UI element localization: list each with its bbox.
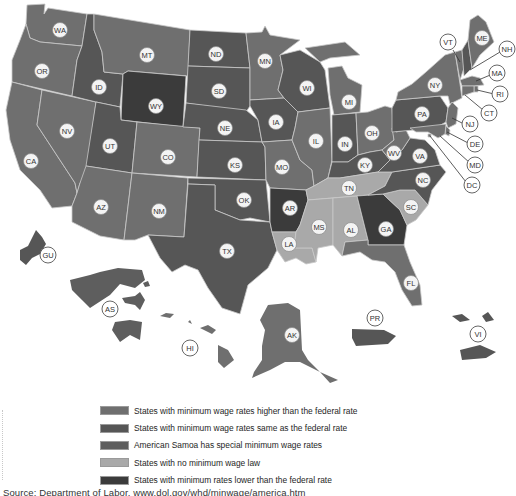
state-label-mn: MN [258,54,273,69]
state-label-nc: NC [416,173,431,188]
state-label-ne: NE [218,121,233,136]
state-label-text: HI [186,344,194,353]
state-label-ny: NY [428,78,443,93]
state-label-text: PR [370,314,381,323]
state-label-tx: TX [220,244,235,259]
state-label-text: FL [407,279,416,288]
state-label-il: IL [309,134,324,149]
state-label-wa: WA [53,23,68,38]
state-label-ok: OK [237,193,252,208]
state-ma[interactable] [460,76,484,86]
state-label-text: PA [417,110,426,119]
state-label-text: KY [360,161,370,170]
state-label-text: WY [150,102,162,111]
legend-label: American Samoa has special minimum wage … [134,440,322,450]
state-label-text: WI [302,84,311,93]
state-label-dc: DC [464,177,480,193]
state-label-de: DE [467,136,483,152]
state-label-text: CA [26,157,36,166]
state-label-ky: KY [358,158,373,173]
leader-ct [465,95,483,110]
state-label-text: MI [345,98,353,107]
state-label-text: IL [313,137,319,146]
state-label-vi: VI [470,326,486,342]
state-ri[interactable] [474,86,478,92]
state-label-text: NV [62,127,72,136]
map-canvas: WAORCANVIDMTWYUTCOAZNMNDSDNEKSOKTXMNIAMO… [0,0,516,400]
state-label-tn: TN [342,181,357,196]
state-ny[interactable] [396,52,462,104]
state-label-text: ID [95,83,103,92]
state-label-text: RI [496,90,504,99]
state-label-text: AS [105,305,115,314]
state-label-text: SC [406,203,417,212]
us-minimum-wage-map: WAORCANVIDMTWYUTCOAZNMNDSDNEKSOKTXMNIAMO… [0,0,516,400]
state-label-as: AS [102,301,118,317]
state-label-text: IN [341,140,349,149]
state-label-text: NH [502,45,513,54]
state-ct[interactable] [462,86,474,96]
state-label-text: VT [443,38,453,47]
state-label-ia: IA [269,115,284,130]
state-label-mt: MT [140,48,155,63]
state-label-text: ME [476,34,487,43]
state-label-text: WA [54,26,66,35]
legend-label: States with no minimum wage law [134,458,260,468]
legend-item-higher: States with minimum wage rates higher th… [100,402,500,419]
state-hi[interactable] [160,313,234,368]
state-label-ma: MA [489,65,505,81]
state-label-text: NJ [465,120,474,129]
state-label-ms: MS [312,220,327,235]
map-legend: States with minimum wage rates higher th… [100,402,500,489]
state-label-fl: FL [404,276,419,291]
state-label-text: MD [469,161,481,170]
state-label-text: OK [239,196,250,205]
state-label-text: MT [142,51,153,60]
margin-decoration [2,410,3,480]
state-label-text: AK [287,331,297,340]
state-label-text: KS [230,161,240,170]
legend-item-none: States with no minimum wage law [100,454,500,471]
state-label-text: AL [346,226,355,235]
legend-label: States with minimum rates lower than the… [134,475,332,485]
state-label-text: AR [285,204,296,213]
state-mt[interactable] [94,14,190,76]
state-label-text: DC [467,181,478,190]
state-label-me: ME [475,31,490,46]
legend-label: States with minimum wage rates higher th… [134,406,357,416]
state-label-text: LA [284,240,293,249]
state-label-md: MD [467,157,483,173]
legend-item-samoa: American Samoa has special minimum wage … [100,437,500,454]
state-label-nd: ND [209,47,224,62]
state-label-az: AZ [94,200,109,215]
state-fl[interactable] [342,240,422,306]
state-label-pa: PA [415,107,430,122]
state-label-sc: SC [404,200,419,215]
state-label-wv: WV [387,146,402,161]
legend-swatch-higher [100,406,129,415]
legend-swatch-same [100,424,129,433]
territory-pr[interactable] [352,329,396,346]
state-label-nv: NV [60,124,75,139]
state-label-in: IN [338,137,353,152]
state-label-text: MO [276,163,288,172]
state-label-nj: NJ [462,116,478,132]
state-label-hi: HI [182,340,198,356]
state-nj[interactable] [446,102,458,128]
state-label-text: NY [430,81,440,90]
state-label-gu: GU [40,247,56,263]
state-label-pr: PR [367,310,383,326]
state-label-text: NC [418,176,429,185]
state-label-ct: CT [481,105,497,121]
state-label-ca: CA [24,154,39,169]
legend-swatch-lower [100,476,129,485]
legend-swatch-samoa [100,441,129,450]
state-label-text: CT [484,109,494,118]
state-label-al: AL [344,223,359,238]
state-ak[interactable] [252,303,338,383]
state-label-text: IA [272,118,279,127]
state-label-ks: KS [228,158,243,173]
state-label-text: TN [344,184,354,193]
state-label-text: ND [211,50,222,59]
state-label-text: OR [36,67,48,76]
